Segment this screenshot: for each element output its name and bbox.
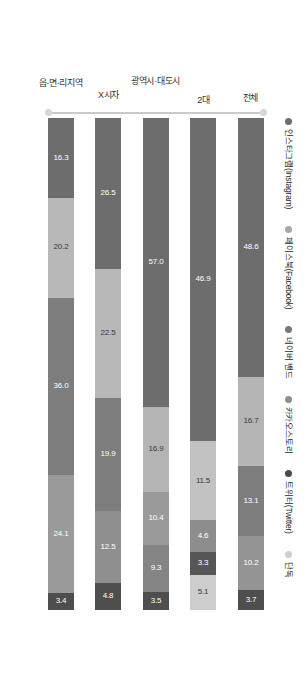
legend-item[interactable]: 트위터(Twitter) (285, 470, 294, 533)
bar-segment-value-label: 22.5 (101, 329, 116, 337)
bar-segment[interactable]: 57.0 (143, 118, 169, 407)
bar-segment[interactable]: 16.9 (143, 407, 169, 493)
bar-segment[interactable]: 9.3 (143, 545, 169, 592)
legend-swatch-icon (285, 118, 292, 125)
bar-segment[interactable]: 26.5 (96, 118, 122, 269)
bar-segment-value-label: 10.4 (149, 515, 164, 523)
bar-segment[interactable]: 11.5 (191, 441, 217, 520)
legend-item[interactable]: 페이스북(Facebook) (285, 226, 294, 309)
bar-segment-value-label: 4.8 (103, 592, 114, 600)
legend-item[interactable]: 단독 (285, 551, 294, 578)
legend-item[interactable]: 네이버 밴드 (285, 326, 294, 378)
legend-swatch-icon (285, 326, 292, 333)
bar-segment[interactable]: 22.5 (96, 269, 122, 397)
bar-segment[interactable]: 10.4 (143, 492, 169, 545)
bar-segment[interactable]: 24.1 (48, 475, 74, 594)
bar-segment[interactable]: 20.2 (48, 198, 74, 297)
bar-segment-value-label: 26.5 (101, 190, 116, 198)
stacked-bar: 26.522.519.912.54.8 (96, 118, 122, 610)
bar-segment-value-label: 19.9 (101, 450, 116, 458)
bar-segment[interactable]: 10.2 (238, 536, 264, 590)
bar-segment-value-label: 12.5 (101, 543, 116, 551)
bar-row: 57.016.910.49.33.5 (143, 118, 169, 610)
category-tick: X시자 (96, 48, 122, 112)
bar-segment[interactable]: 19.9 (96, 398, 122, 512)
stacked-bar: 46.911.54.63.35.1 (191, 118, 217, 610)
bar-segment[interactable]: 12.5 (96, 511, 122, 582)
bar-segment[interactable]: 36.0 (48, 298, 74, 475)
bar-segment[interactable]: 3.3 (191, 552, 217, 575)
plot-area: 48.616.713.110.23.746.911.54.63.35.157.0… (48, 118, 264, 610)
category-tick-label: X시자 (98, 91, 119, 100)
bar-segment-value-label: 3.3 (198, 559, 209, 567)
stacked-bar: 57.016.910.49.33.5 (143, 118, 169, 610)
bar-segment-value-label: 5.1 (198, 588, 209, 596)
legend-item-label: 페이스북(Facebook) (285, 237, 294, 309)
bar-segment[interactable]: 3.5 (143, 592, 169, 610)
bar-rows: 48.616.713.110.23.746.911.54.63.35.157.0… (48, 118, 264, 610)
bar-segment[interactable]: 16.7 (238, 377, 264, 466)
bar-segment-value-label: 11.5 (196, 477, 210, 485)
bar-segment-value-label: 3.7 (246, 596, 257, 604)
bar-segment-value-label: 9.3 (151, 565, 162, 573)
legend-item-label: 네이버 밴드 (285, 337, 294, 378)
bar-segment[interactable]: 3.4 (48, 593, 74, 610)
bar-segment-value-label: 16.9 (149, 446, 164, 454)
category-tick: 광역시·대도시 (143, 48, 169, 112)
bar-segment[interactable]: 48.6 (238, 118, 264, 377)
axis-cap-end-icon (45, 109, 52, 116)
bar-segment-value-label: 46.9 (196, 276, 211, 284)
category-tick: 읍·면·리지역 (48, 48, 74, 112)
legend-item-label: 단독 (285, 562, 294, 578)
bar-segment-value-label: 3.4 (56, 598, 67, 606)
bar-segment-value-label: 13.1 (244, 497, 259, 505)
bar-segment-value-label: 57.0 (149, 258, 164, 266)
bar-segment-value-label: 16.7 (244, 418, 259, 426)
category-tick-label: 2대 (197, 95, 209, 104)
bar-segment[interactable]: 46.9 (191, 118, 217, 441)
bar-segment-value-label: 16.3 (54, 154, 69, 162)
bar-segment-value-label: 36.0 (54, 382, 69, 390)
bar-segment-value-label: 24.1 (54, 530, 69, 538)
legend-swatch-icon (285, 470, 292, 477)
category-tick-label: 광역시·대도시 (132, 77, 181, 86)
stacked-bar: 48.616.713.110.23.7 (238, 118, 264, 610)
legend-swatch-icon (285, 226, 292, 233)
category-tick-label: 읍·면·리지역 (39, 80, 83, 89)
axis-cap-start-icon (260, 109, 267, 116)
category-tick-label: 전체 (243, 94, 258, 103)
stacked-bar-chart: 인스타그램(Instagram)페이스북(Facebook)네이버 밴드카카오스… (0, 0, 307, 689)
bar-row: 26.522.519.912.54.8 (96, 118, 122, 610)
axis-baseline (46, 112, 264, 114)
stacked-bar: 16.320.236.024.13.4 (48, 118, 74, 610)
legend-swatch-icon (285, 396, 292, 403)
chart-legend: 인스타그램(Instagram)페이스북(Facebook)네이버 밴드카카오스… (285, 118, 294, 577)
bar-segment-value-label: 48.6 (244, 244, 259, 252)
legend-swatch-icon (285, 551, 292, 558)
bar-segment[interactable]: 4.8 (96, 583, 122, 610)
rotated-figure-wrapper: 인스타그램(Instagram)페이스북(Facebook)네이버 밴드카카오스… (0, 0, 307, 689)
category-axis: 전체2대광역시·대도시X시자읍·면·리지역 (48, 48, 264, 112)
bar-row: 48.616.713.110.23.7 (238, 118, 264, 610)
category-tick: 전체 (238, 48, 264, 112)
bar-segment-value-label: 3.5 (151, 597, 162, 605)
category-tick: 2대 (191, 48, 217, 112)
bar-segment[interactable]: 13.1 (238, 466, 264, 536)
bar-segment-value-label: 20.2 (54, 244, 69, 252)
bar-segment-value-label: 4.6 (198, 532, 209, 540)
bar-row: 46.911.54.63.35.1 (191, 118, 217, 610)
legend-item-label: 트위터(Twitter) (285, 481, 294, 533)
bar-segment[interactable]: 4.6 (191, 520, 217, 552)
bar-segment[interactable]: 3.7 (238, 590, 264, 610)
legend-item-label: 인스타그램(Instagram) (285, 129, 294, 209)
legend-item-label: 카카오스토리 (285, 407, 294, 454)
bar-row: 16.320.236.024.13.4 (48, 118, 74, 610)
bar-segment[interactable]: 5.1 (191, 575, 217, 610)
bar-segment-value-label: 10.2 (244, 559, 259, 567)
legend-item[interactable]: 인스타그램(Instagram) (285, 118, 294, 209)
legend-item[interactable]: 카카오스토리 (285, 396, 294, 454)
bar-segment[interactable]: 16.3 (48, 118, 74, 198)
